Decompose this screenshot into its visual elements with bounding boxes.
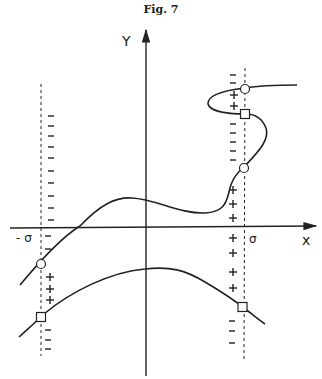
lower-curve	[19, 268, 265, 337]
square-marker	[241, 110, 250, 119]
circle-marker	[241, 85, 250, 94]
circle-marker	[240, 164, 249, 173]
neg-sigma-label: - σ	[16, 231, 32, 245]
upper-curve	[20, 85, 297, 285]
x-axis	[10, 226, 316, 228]
neg-sigma-signs	[45, 116, 54, 349]
x-axis-label: x	[302, 232, 310, 248]
y-axis-label: Y	[121, 33, 131, 49]
diagram-canvas: Y x - σ σ	[0, 0, 322, 379]
circle-marker	[37, 260, 46, 269]
sigma-label: σ	[249, 232, 257, 246]
square-marker	[37, 313, 46, 322]
square-marker	[238, 303, 247, 312]
